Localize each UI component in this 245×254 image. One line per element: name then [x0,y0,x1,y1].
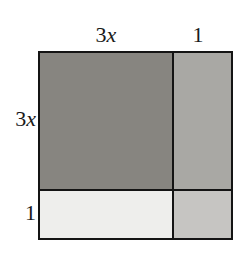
vertical-divider-line [172,53,174,238]
label-left-unit: 1 [2,202,36,224]
label-top-width-variable: x [107,22,117,47]
label-left-height-variable: x [26,106,36,131]
label-top-unit: 1 [172,24,224,46]
label-top-width-number: 3 [96,22,107,47]
region-corner-square [172,189,231,238]
horizontal-divider-line [40,189,231,191]
label-top-width: 3x [78,24,134,46]
outer-square [38,51,233,240]
region-bottom-strip [40,189,172,238]
region-large-square [40,53,172,189]
label-left-height: 3x [2,108,36,130]
region-right-strip [172,53,231,189]
label-left-height-number: 3 [15,106,26,131]
area-model-figure: 3x 1 3x 1 [0,0,245,254]
